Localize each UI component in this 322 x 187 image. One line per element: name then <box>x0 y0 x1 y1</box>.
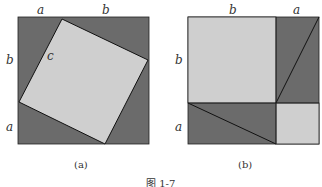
label-a-top: a <box>293 3 300 17</box>
caption-a: (a) <box>74 159 88 170</box>
caption-b: (b) <box>238 159 252 170</box>
square-a-squared <box>276 103 319 144</box>
label-a-left: a <box>175 120 182 134</box>
square-b-squared <box>188 17 276 103</box>
figure-a: a b b a c (a) <box>6 3 149 170</box>
figure-b: b a b a (b) <box>175 3 319 170</box>
label-b-left: b <box>175 53 183 67</box>
label-b-left: b <box>6 53 14 67</box>
label-a-left: a <box>6 120 13 134</box>
figure-number: 图 1-7 <box>146 178 175 187</box>
label-a-top: a <box>37 3 44 17</box>
label-b-top: b <box>102 3 110 17</box>
pythagorean-diagram: a b b a c (a) b a b a (b) 图 1-7 <box>0 0 322 187</box>
label-b-top: b <box>229 3 237 17</box>
label-c: c <box>47 49 54 63</box>
